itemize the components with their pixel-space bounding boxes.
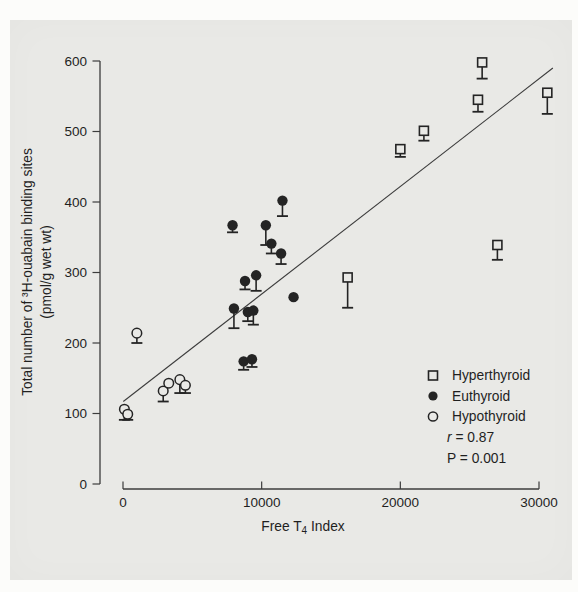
data-point-euthyroid xyxy=(228,303,239,328)
open-square-icon xyxy=(429,371,438,380)
data-point-euthyroid xyxy=(227,220,238,232)
data-point-hyperthyroid xyxy=(472,95,483,111)
y-tick-label: 300 xyxy=(64,265,87,280)
y-tick-label: 100 xyxy=(64,406,87,421)
legend-entry-hyperthyroid: Hyperthyroid xyxy=(429,368,531,383)
data-point-euthyroid xyxy=(277,195,288,216)
legend-entry-euthyroid: Euthyroid xyxy=(428,389,510,404)
data-point-euthyroid xyxy=(266,238,277,253)
filled-circle-icon xyxy=(277,195,287,205)
series-hyperthyroid xyxy=(342,58,553,308)
data-point-euthyroid xyxy=(240,276,251,290)
open-circle-icon xyxy=(428,412,437,421)
stat-p-value: P = 0.001 xyxy=(447,451,506,466)
series-euthyroid xyxy=(227,195,299,369)
filled-circle-icon xyxy=(288,292,298,302)
data-point-euthyroid xyxy=(251,270,262,291)
open-circle-icon xyxy=(123,409,133,419)
filled-circle-icon xyxy=(251,270,261,280)
open-square-icon xyxy=(473,95,482,104)
series-hypothyroid xyxy=(119,328,191,420)
x-tick-label: 20000 xyxy=(382,495,420,510)
x-axis-title: Free T4 Index xyxy=(261,519,345,536)
open-circle-icon xyxy=(164,378,174,388)
legend-label: Euthyroid xyxy=(452,389,510,404)
data-point-hypothyroid xyxy=(164,378,174,388)
legend-label: Hypothyroid xyxy=(452,409,526,424)
filled-circle-icon xyxy=(229,303,239,313)
open-square-icon xyxy=(478,58,487,67)
y-tick-label: 600 xyxy=(64,54,87,69)
data-point-hyperthyroid xyxy=(395,145,406,157)
stat-r-value: r = 0.87 xyxy=(447,430,494,445)
data-point-hyperthyroid xyxy=(418,126,429,140)
y-tick-label: 500 xyxy=(64,124,87,139)
data-point-hyperthyroid xyxy=(342,273,353,308)
open-circle-icon xyxy=(132,328,142,338)
x-tick-label: 30000 xyxy=(520,495,558,510)
filled-circle-icon xyxy=(227,220,237,230)
filled-circle-icon xyxy=(247,354,257,364)
open-square-icon xyxy=(343,273,352,282)
y-tick-label: 200 xyxy=(64,336,87,351)
filled-circle-icon xyxy=(266,238,276,248)
filled-circle-icon xyxy=(261,220,271,230)
scatter-chart: 01002003004005006000100002000030000Hyper… xyxy=(0,0,578,592)
x-tick-label: 0 xyxy=(119,495,127,510)
y-axis-title-line1: Total number of ³H-ouabain binding sites xyxy=(20,148,35,396)
data-point-hypothyroid xyxy=(180,381,191,394)
data-point-hyperthyroid xyxy=(477,58,488,79)
open-circle-icon xyxy=(181,381,191,391)
figure-page: 01002003004005006000100002000030000Hyper… xyxy=(0,0,578,592)
filled-circle-icon xyxy=(276,248,286,258)
data-point-euthyroid xyxy=(276,248,287,264)
y-tick-label: 0 xyxy=(79,477,87,492)
open-square-icon xyxy=(396,145,405,154)
y-axis-title-line2: (pmol/g wet wt) xyxy=(39,225,54,319)
filled-circle-icon xyxy=(240,276,250,286)
y-tick-label: 400 xyxy=(64,195,87,210)
data-point-hyperthyroid xyxy=(492,241,503,260)
x-tick-label: 10000 xyxy=(243,495,281,510)
regression-line xyxy=(123,68,553,401)
open-square-icon xyxy=(493,241,502,250)
legend-entry-hypothyroid: Hypothyroid xyxy=(428,409,525,424)
data-point-euthyroid xyxy=(246,354,257,367)
data-point-hyperthyroid xyxy=(542,88,553,114)
filled-circle-icon xyxy=(428,391,437,400)
open-square-icon xyxy=(543,88,552,97)
open-square-icon xyxy=(419,126,428,135)
data-point-euthyroid xyxy=(288,292,298,302)
legend-label: Hyperthyroid xyxy=(452,368,530,383)
data-point-hypothyroid xyxy=(131,328,142,343)
filled-circle-icon xyxy=(248,305,258,315)
